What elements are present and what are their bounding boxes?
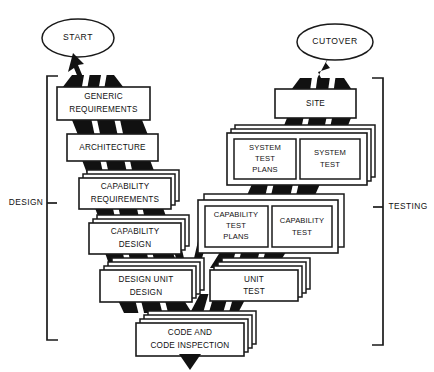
testing-label: TESTING: [388, 201, 427, 211]
design-label: DESIGN: [9, 197, 44, 207]
node-capability-test-plans[interactable]: CAPABILITY TEST PLANS: [205, 206, 268, 247]
start-terminator: START: [42, 19, 114, 80]
node-system-test[interactable]: SYSTEM TEST: [300, 139, 360, 179]
node-capability-design[interactable]: CAPABILITY DESIGN: [89, 215, 189, 254]
node-capability-test[interactable]: CAPABILITY TEST: [272, 206, 332, 247]
node-line: UNIT: [244, 275, 264, 284]
node-line: TEST: [243, 287, 265, 296]
cutover-label: CUTOVER: [312, 36, 357, 46]
node-system-test-plans[interactable]: SYSTEM TEST PLANS: [234, 139, 296, 179]
node-system-test-group[interactable]: SYSTEM TEST PLANS SYSTEM TEST: [227, 125, 375, 185]
node-line: GENERIC: [84, 92, 123, 101]
node-line: REQUIREMENTS: [91, 195, 160, 204]
node-design-unit-design[interactable]: DESIGN UNIT DESIGN: [100, 258, 204, 302]
node-line: TEST: [320, 160, 340, 169]
node-line: CAPABILITY: [101, 182, 150, 191]
testing-bracket: [372, 78, 383, 345]
node-code-and-code-inspection[interactable]: CODE AND CODE INSPECTION: [136, 311, 256, 356]
node-line: CODE AND: [168, 328, 212, 337]
node-site[interactable]: SITE: [275, 89, 356, 118]
node-line: CAPABILITY: [214, 210, 258, 219]
node-line: DESIGN: [130, 288, 163, 297]
node-line: TEST: [292, 228, 312, 237]
node-architecture[interactable]: ARCHITECTURE: [67, 134, 158, 161]
node-line: SYSTEM: [314, 148, 346, 157]
node-line: PLANS: [223, 232, 248, 241]
cutover-terminator: CUTOVER: [297, 24, 373, 84]
final-output-arrow: [179, 354, 201, 370]
node-line: DESIGN: [119, 240, 152, 249]
node-line: TEST: [226, 221, 246, 230]
node-capability-test-group[interactable]: CAPABILITY TEST PLANS CAPABILITY TEST: [198, 194, 344, 253]
node-line: ARCHITECTURE: [79, 143, 146, 152]
start-label: START: [63, 32, 93, 42]
node-unit-test[interactable]: UNIT TEST: [210, 258, 310, 301]
node-line: SITE: [306, 99, 325, 108]
v-model-diagram: DESIGN TESTING START CUTOVER: [0, 0, 434, 372]
node-line: REQUIREMENTS: [69, 105, 138, 114]
node-line: SYSTEM: [249, 143, 281, 152]
node-generic-requirements[interactable]: GENERIC REQUIREMENTS: [57, 87, 150, 120]
node-line: TEST: [255, 154, 275, 163]
node-line: CODE INSPECTION: [151, 341, 230, 350]
node-line: CAPABILITY: [280, 216, 324, 225]
node-capability-requirements[interactable]: CAPABILITY REQUIREMENTS: [79, 170, 179, 209]
node-line: DESIGN UNIT: [119, 275, 174, 284]
diagram-canvas: DESIGN TESTING START CUTOVER: [0, 0, 434, 372]
node-line: CAPABILITY: [111, 227, 160, 236]
node-line: PLANS: [252, 165, 277, 174]
